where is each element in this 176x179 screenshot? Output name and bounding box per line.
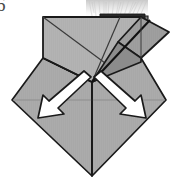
- origami-figure: [0, 0, 176, 179]
- origami-diagram-screenshot: 6: [0, 0, 176, 179]
- step-number-label: 6: [0, 0, 6, 14]
